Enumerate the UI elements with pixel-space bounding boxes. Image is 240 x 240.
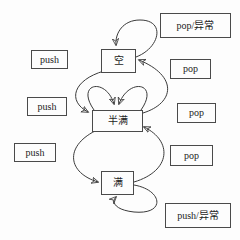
label-pop-top-text: pop xyxy=(183,64,198,74)
label-pop-top: pop xyxy=(170,59,211,79)
label-push-top-text: push xyxy=(40,55,59,65)
label-pop-bottom: pop xyxy=(170,145,213,166)
label-pop-middle-text: pop xyxy=(189,108,204,118)
label-pop-middle: pop xyxy=(177,103,216,123)
state-half-full-label: 半满 xyxy=(108,116,128,126)
stack-state-diagram: 空 半满 满 pop/异常 push pop push pop push pop… xyxy=(0,0,240,240)
label-pop-exception-text: pop/异常 xyxy=(177,21,215,31)
edge-half-to-empty xyxy=(139,60,168,113)
label-push-middle: push xyxy=(27,97,67,116)
edge-half-self-loop-right xyxy=(119,87,147,110)
state-empty: 空 xyxy=(101,49,136,73)
edge-half-to-full xyxy=(74,131,98,182)
edge-half-self-loop-left xyxy=(88,87,114,110)
label-push-middle-text: push xyxy=(38,102,57,112)
label-push-bottom: push xyxy=(14,143,56,162)
label-push-bottom-text: push xyxy=(26,148,45,158)
state-full: 满 xyxy=(101,171,134,195)
edge-full-to-half xyxy=(134,127,164,182)
label-pop-bottom-text: pop xyxy=(184,151,199,161)
label-push-exception: push/异常 xyxy=(165,203,231,228)
edge-empty-to-half xyxy=(76,71,104,112)
label-pop-exception: pop/异常 xyxy=(160,13,231,38)
state-empty-label: 空 xyxy=(114,56,124,66)
label-push-top: push xyxy=(31,50,68,69)
state-half-full: 半满 xyxy=(92,110,143,132)
label-push-exception-text: push/异常 xyxy=(177,211,219,221)
state-full-label: 满 xyxy=(113,178,123,188)
